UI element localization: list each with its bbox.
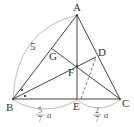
arc-BE bbox=[13, 100, 77, 109]
fraction-EC-variable: a bbox=[104, 110, 109, 120]
label-C: C bbox=[122, 97, 129, 109]
label-E: E bbox=[73, 100, 80, 112]
point-B bbox=[12, 98, 14, 100]
point-C bbox=[119, 98, 121, 100]
fraction-BE-variable: a bbox=[47, 110, 52, 120]
angle-mark-dot bbox=[21, 89, 23, 91]
fraction-EC-numerator: 2 bbox=[95, 106, 99, 115]
label-A: A bbox=[73, 1, 81, 13]
point-A bbox=[76, 14, 78, 16]
label-side-AB: 5 bbox=[30, 40, 36, 52]
label-F: F bbox=[68, 66, 74, 78]
fraction-BE-numerator: 5 bbox=[38, 106, 42, 115]
label-D: D bbox=[98, 46, 106, 58]
fraction-BE-denominator: 7 bbox=[38, 115, 42, 124]
label-B: B bbox=[6, 101, 13, 113]
angle-mark-dot bbox=[24, 95, 26, 97]
point-F bbox=[76, 65, 78, 67]
label-G: G bbox=[49, 50, 57, 62]
segment-CG bbox=[51, 48, 120, 99]
triangle-diagram: A B C D E F G 5 5 7 a 2 7 a bbox=[0, 0, 134, 127]
fraction-EC-denominator: 7 bbox=[95, 115, 99, 124]
